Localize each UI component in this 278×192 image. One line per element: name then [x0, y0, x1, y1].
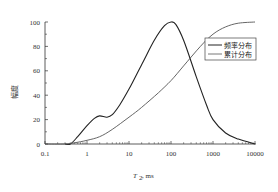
legend: 频率分布 累计分布 — [205, 38, 256, 60]
y-axis-label: 幅度 — [10, 85, 19, 99]
x-tick-label: 100 — [166, 150, 177, 158]
x-tick-label: 10 — [126, 150, 134, 158]
legend-label-frequency: 频率分布 — [224, 41, 252, 50]
chart: 020406080100 0.1110100100010000 幅度 T 2 ,… — [0, 0, 278, 192]
y-tick-label: 0 — [37, 141, 41, 149]
legend-label-cumulative: 累计分布 — [224, 50, 252, 59]
x-tick-label: 10000 — [246, 150, 264, 158]
y-tick-label: 60 — [33, 67, 41, 75]
y-tick-label: 100 — [30, 19, 41, 27]
y-tick-label: 40 — [33, 92, 41, 100]
svg-text:T: T — [133, 172, 138, 180]
svg-text:, ms: , ms — [142, 172, 154, 180]
y-tick-label: 20 — [33, 116, 41, 124]
x-axis-label: T 2 , ms — [133, 172, 154, 182]
x-tick-label: 1 — [85, 150, 89, 158]
x-tick-label: 0.1 — [41, 150, 50, 158]
y-tick-label: 80 — [33, 43, 41, 51]
x-tick-label: 1000 — [206, 150, 221, 158]
